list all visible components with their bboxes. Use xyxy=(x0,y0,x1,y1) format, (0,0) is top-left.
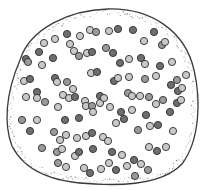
particle xyxy=(182,71,189,78)
stipple-dot xyxy=(177,47,178,48)
stipple-dot xyxy=(164,27,165,28)
stipple-dot xyxy=(111,180,112,181)
stipple-dot xyxy=(37,39,38,40)
stipple-dot xyxy=(74,17,75,18)
particle xyxy=(120,115,127,122)
particle xyxy=(102,44,109,51)
stipple-dot xyxy=(185,58,186,59)
stipple-dot xyxy=(14,136,15,137)
stipple-dot xyxy=(85,177,87,179)
stipple-dot xyxy=(61,25,63,27)
particle xyxy=(141,60,148,67)
stipple-dot xyxy=(13,114,14,115)
stipple-dot xyxy=(147,174,148,175)
stipple-dot xyxy=(73,18,74,19)
stipple-dot xyxy=(124,13,126,15)
stipple-dot xyxy=(39,38,40,39)
stipple-dot xyxy=(158,27,159,28)
particle xyxy=(54,103,61,110)
stipple-dot xyxy=(192,92,193,93)
stipple-dot xyxy=(13,134,14,135)
stipple-dot xyxy=(77,17,78,18)
stipple-dot xyxy=(145,179,146,180)
stipple-dot xyxy=(173,166,174,167)
stipple-dot xyxy=(169,171,170,172)
stipple-dot xyxy=(48,29,49,30)
particle xyxy=(108,148,115,155)
stipple-dot xyxy=(137,16,138,17)
stipple-dot xyxy=(100,181,101,182)
particle xyxy=(49,54,56,61)
stipple-dot xyxy=(188,142,189,143)
stipple-dot xyxy=(12,101,13,102)
particle xyxy=(145,93,152,100)
particle xyxy=(56,136,63,143)
stipple-dot xyxy=(29,49,30,50)
particle xyxy=(117,108,124,115)
stipple-dot xyxy=(17,151,18,152)
stipple-dot xyxy=(10,128,11,129)
particle xyxy=(92,28,99,35)
stipple-dot xyxy=(114,11,115,12)
particle xyxy=(66,40,73,47)
stipple-dot xyxy=(18,71,19,72)
particle xyxy=(50,128,57,135)
stipple-dot xyxy=(18,84,19,85)
stipple-dot xyxy=(24,160,25,161)
stipple-dot xyxy=(195,103,196,104)
particle xyxy=(152,72,159,79)
stipple-dot xyxy=(194,126,195,127)
stipple-dot xyxy=(17,75,18,76)
stipple-dot xyxy=(86,17,87,18)
stipple-dot xyxy=(98,181,99,182)
stipple-dot xyxy=(44,34,45,35)
stipple-dot xyxy=(13,112,14,113)
particle xyxy=(62,163,69,170)
stipple-dot xyxy=(184,61,185,62)
stipple-dot xyxy=(192,123,193,124)
stipple-dot xyxy=(183,56,184,57)
stipple-dot xyxy=(103,11,104,12)
stipple-dot xyxy=(45,172,46,173)
stipple-dot xyxy=(63,23,64,24)
particle xyxy=(58,145,65,152)
stipple-dot xyxy=(89,181,90,182)
stipple-dot xyxy=(191,70,192,71)
particle xyxy=(24,58,31,65)
stipple-dot xyxy=(12,97,13,98)
stipple-dot xyxy=(66,175,68,177)
stipple-dot xyxy=(166,29,167,30)
stipple-dot xyxy=(156,26,157,27)
particle xyxy=(169,127,176,134)
stipple-dot xyxy=(46,33,47,34)
stipple-dot xyxy=(168,36,169,37)
particle xyxy=(26,75,33,82)
particle xyxy=(116,59,123,66)
stipple-dot xyxy=(176,38,177,39)
stipple-dot xyxy=(15,142,16,143)
stipple-dot xyxy=(185,145,186,146)
stipple-dot xyxy=(156,23,157,24)
particle xyxy=(125,73,132,80)
stipple-dot xyxy=(150,24,151,25)
stipple-dot xyxy=(173,163,174,164)
particle xyxy=(112,166,119,173)
stipple-dot xyxy=(185,53,187,55)
stipple-dot xyxy=(105,10,106,11)
stipple-dot xyxy=(8,110,9,111)
particle xyxy=(161,38,168,45)
stipple-dot xyxy=(18,66,19,67)
stipple-dot xyxy=(162,173,163,174)
particle xyxy=(38,144,45,151)
particle xyxy=(35,48,42,55)
stipple-dot xyxy=(116,12,117,13)
stipple-dot xyxy=(185,153,186,154)
particle xyxy=(167,81,174,88)
stipple-dot xyxy=(26,50,27,51)
particle xyxy=(41,98,48,105)
stipple-dot xyxy=(147,21,148,22)
particle xyxy=(89,145,96,152)
stipple-dot xyxy=(143,179,144,180)
particle xyxy=(153,147,160,154)
stipple-dot xyxy=(191,132,192,133)
